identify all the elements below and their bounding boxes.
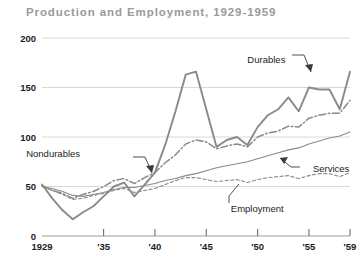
x-tick-label-59: '59 bbox=[344, 241, 357, 252]
x-tick-label-50: '50 bbox=[251, 241, 264, 252]
series-annotations-group: DurablesNondurablesServicesEmployment bbox=[26, 54, 349, 214]
chart-plot-area: 200150100500 1929'35'40'45'50'55'59 Dura… bbox=[0, 0, 362, 260]
x-tick-label-40: '40 bbox=[149, 241, 162, 252]
y-tick-label-200: 200 bbox=[20, 33, 36, 44]
y-tick-label-100: 100 bbox=[20, 132, 36, 143]
x-tick-label-45: '45 bbox=[200, 241, 214, 252]
gridlines-group bbox=[42, 38, 350, 236]
leader-line-durables bbox=[292, 55, 311, 72]
data-series-group bbox=[42, 72, 350, 220]
leader-line-durables-arrowhead bbox=[305, 64, 313, 72]
x-tick-label-35: '35 bbox=[97, 241, 111, 252]
annotation-label-nondurables: Nondurables bbox=[26, 148, 80, 159]
annotation-label-employment: Employment bbox=[231, 203, 284, 214]
annotation-label-services: Services bbox=[313, 163, 350, 174]
leader-line-nondurables-arrowhead bbox=[146, 165, 154, 173]
y-axis-tick-labels: 200150100500 bbox=[20, 33, 36, 242]
x-axis-tick-labels: 1929'35'40'45'50'55'59 bbox=[31, 241, 356, 252]
chart-container: Production and Employment, 1929-1959 200… bbox=[0, 0, 362, 260]
y-tick-label-150: 150 bbox=[20, 82, 36, 93]
annotation-label-durables: Durables bbox=[247, 54, 285, 65]
x-tick-label-55: '55 bbox=[303, 241, 317, 252]
leader-line-services-arrowhead bbox=[280, 157, 288, 164]
y-tick-label-50: 50 bbox=[25, 181, 36, 192]
x-axis-tick-marks bbox=[104, 229, 350, 236]
y-tick-label-0: 0 bbox=[31, 231, 36, 242]
x-tick-label-1929: 1929 bbox=[31, 241, 52, 252]
leader-line-nondurables bbox=[133, 157, 152, 173]
series-line-nondurables bbox=[42, 100, 350, 198]
